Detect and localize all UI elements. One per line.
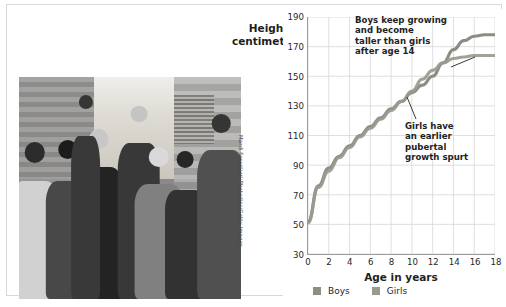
boys-annotation-line-2: and become: [355, 25, 451, 35]
legend-item-girls[interactable]: Girls: [372, 286, 407, 296]
chart-legend: Boys Girls: [313, 286, 407, 296]
y-tick-190: 190: [288, 12, 304, 22]
y-tick-150: 150: [288, 72, 304, 82]
photo-person: [68, 95, 104, 299]
boys-annotation-line-3: taller than girls: [355, 36, 451, 46]
x-tick-18: 18: [491, 257, 502, 267]
y-tick-170: 170: [288, 42, 304, 52]
boys-annotation-line-1: Boys keep growing: [355, 15, 451, 25]
x-axis-title: Age in years: [307, 271, 495, 283]
x-tick-0: 0: [305, 257, 310, 267]
y-tick-70: 70: [293, 191, 304, 201]
y-tick-50: 50: [293, 220, 304, 230]
x-tick-8: 8: [389, 257, 394, 267]
x-tick-14: 14: [449, 257, 460, 267]
girls-annotation-line-3: pubertal: [405, 142, 471, 152]
boys-annotation-line-4: after age 14: [355, 46, 451, 56]
teenagers-photograph: [19, 77, 241, 299]
legend-swatch-girls: [372, 287, 380, 295]
x-tick-2: 2: [326, 257, 331, 267]
y-tick-130: 130: [288, 101, 304, 111]
y-tick-90: 90: [293, 161, 304, 171]
x-tick-4: 4: [347, 257, 352, 267]
girls-annotation-line-1: Girls have: [405, 121, 471, 131]
legend-label-girls: Girls: [387, 286, 407, 296]
x-tick-16: 16: [470, 257, 481, 267]
girls-annotation-line-4: growth spurt: [405, 152, 471, 162]
growth-chart: 30507090110130150170190 024681012141618 …: [283, 9, 506, 301]
figure-panel: Mardi Forastieri/Photodisc/Getty Images …: [6, 4, 502, 296]
girls-annotation: Girls have an earlier pubertal growth sp…: [405, 121, 471, 163]
x-tick-10: 10: [407, 257, 418, 267]
legend-label-boys: Boys: [328, 286, 350, 296]
y-tick-30: 30: [293, 250, 304, 260]
legend-swatch-boys: [313, 287, 321, 295]
photo-person: [197, 113, 241, 299]
x-tick-6: 6: [368, 257, 373, 267]
legend-item-boys[interactable]: Boys: [313, 286, 350, 296]
y-tick-110: 110: [288, 131, 304, 141]
photo-credit: Mardi Forastieri/Photodisc/Getty Images: [238, 135, 244, 247]
x-tick-12: 12: [428, 257, 439, 267]
boys-annotation: Boys keep growing and become taller than…: [355, 15, 451, 57]
girls-annotation-line-2: an earlier: [405, 131, 471, 141]
